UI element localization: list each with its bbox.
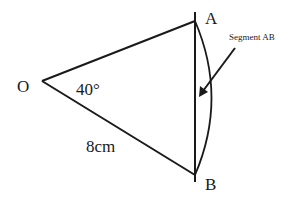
label-B: B [205, 175, 216, 194]
segment-label: Segment AB [229, 32, 275, 42]
angle-label: 40° [76, 80, 100, 99]
radius-OA [42, 21, 195, 81]
arc-AB [195, 21, 212, 175]
radius-OB [42, 81, 195, 175]
segment-arrow [203, 48, 235, 91]
sector-diagram: O A B 40° 8cm Segment AB [0, 0, 292, 202]
label-A: A [205, 9, 218, 28]
radius-label: 8cm [86, 137, 115, 156]
label-O: O [17, 77, 29, 96]
diagram-canvas: O A B 40° 8cm Segment AB [0, 0, 292, 202]
